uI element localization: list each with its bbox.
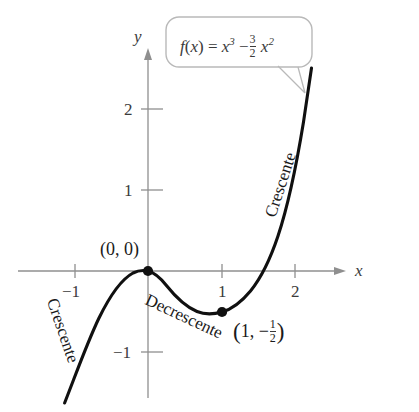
x-axis-arrowhead — [334, 267, 346, 275]
y-tick-label-2: 2 — [124, 101, 133, 118]
formula-equals: = — [208, 37, 218, 56]
formula-callout-tail — [278, 66, 305, 93]
formula-minus-sign: − — [239, 37, 249, 56]
x-tick-label-1: 1 — [218, 283, 227, 300]
y-axis-arrowhead — [144, 48, 152, 60]
minimum-label-x: 1, — [241, 321, 255, 341]
relative-minimum-point — [217, 307, 227, 317]
minimum-label-open-paren: ( — [233, 319, 241, 344]
minimum-label-close-paren: ) — [277, 319, 285, 344]
formula-fraction-numerator: 3 — [250, 33, 256, 46]
formula-close-paren: ) — [198, 37, 204, 56]
minimum-label-fraction-numerator: 1 — [270, 318, 276, 331]
formula-var-x: x — [190, 37, 198, 56]
formula-term1-exponent: 3 — [229, 35, 235, 47]
function-graph-figure: f(x) = x3 −32 x2 y x −1 1 2 2 1 −1 (0, 0… — [0, 0, 419, 412]
y-axis-label: y — [134, 28, 142, 45]
x-tick-label-2: 2 — [291, 283, 300, 300]
function-curve — [65, 68, 312, 403]
y-tick-label-1: 1 — [124, 182, 133, 199]
minimum-label-fraction: 12 — [270, 318, 276, 344]
origin-point-label: (0, 0) — [100, 240, 139, 258]
relative-maximum-point — [143, 266, 153, 276]
formula-text: f(x) = x3 −32 x2 — [180, 33, 274, 59]
minimum-point-label: (1, −12) — [233, 318, 285, 344]
minimum-label-minus: − — [259, 321, 269, 341]
x-axis-label: x — [355, 262, 363, 279]
formula-fraction-three-halves: 32 — [250, 33, 256, 59]
y-tick-label--1: −1 — [113, 344, 131, 361]
formula-fraction-denominator: 2 — [250, 46, 256, 60]
minimum-label-fraction-denominator: 2 — [270, 331, 276, 345]
formula-term2-exponent: 2 — [268, 35, 274, 47]
x-tick-label--1: −1 — [62, 283, 80, 300]
